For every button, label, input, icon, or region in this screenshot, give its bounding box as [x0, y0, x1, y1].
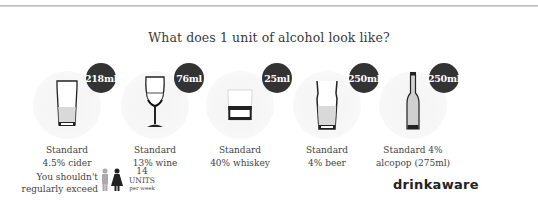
top-divider [0, 5, 538, 7]
drink-label: Standard 4.5% cider [17, 144, 117, 169]
bottle-icon [404, 71, 422, 133]
infographic-title: What does 1 unit of alcohol look like? [0, 30, 538, 45]
guideline-text: You shouldn't regularly exceed [20, 171, 98, 195]
units-per-week: 14 UNITS per week [126, 167, 158, 192]
volume-badge: 250ml [429, 63, 459, 93]
volume-badge: 25ml [262, 63, 292, 93]
volume-badge: 218ml [86, 63, 116, 93]
drink-label: Standard 4% beer [277, 144, 377, 169]
wine-glass-icon [141, 73, 169, 133]
drink-label: Standard 4% alcopop (275ml) [363, 144, 463, 169]
volume-badge: 250ml [349, 63, 379, 93]
drinkaware-logo: drinkaware [393, 177, 479, 192]
volume-badge: 76ml [174, 63, 204, 93]
beer-glass-icon [313, 79, 341, 133]
pint-glass-icon [53, 75, 81, 133]
man-woman-icon [99, 168, 125, 192]
drink-label: Standard 40% whiskey [190, 144, 290, 169]
tumbler-glass-icon [225, 88, 255, 122]
